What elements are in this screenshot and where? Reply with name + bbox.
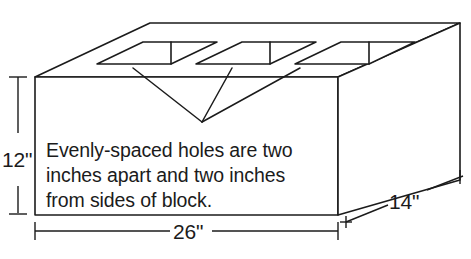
width-label: 26" <box>173 220 203 243</box>
dimension-width: 26" <box>35 220 338 243</box>
figure-canvas: 12" 26" 14" Evenly-spaced holes are two … <box>0 0 471 259</box>
note-line-1: Evenly-spaced holes are two <box>46 139 293 161</box>
block-diagram: 12" 26" 14" Evenly-spaced holes are two … <box>0 0 471 259</box>
dimension-height: 12" <box>2 77 32 214</box>
note-line-2: inches apart and two inches <box>46 164 285 186</box>
note-line-3: from sides of block. <box>46 189 212 211</box>
height-label: 12" <box>2 148 32 171</box>
depth-label: 14" <box>389 190 419 213</box>
hole-group <box>97 42 415 64</box>
